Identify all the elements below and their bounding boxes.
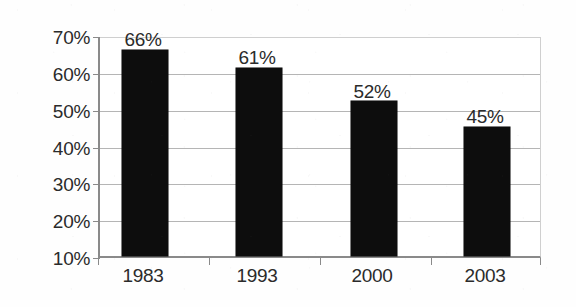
- bar-1983: [122, 50, 168, 256]
- x-tick-label-2000-text: 2000: [351, 265, 392, 286]
- y-axis-tick-40: [93, 148, 100, 149]
- x-tick-label-2003-text: 2003: [464, 265, 505, 286]
- bar-2003: [464, 127, 510, 256]
- x-tick-label-2000: 2000: [351, 266, 392, 285]
- y-tick-label-40: 40%: [10, 138, 90, 157]
- y-tick-label-20: 20%: [10, 212, 90, 231]
- y-axis-tick-70: [93, 37, 100, 38]
- y-axis-tick-60: [93, 74, 100, 75]
- x-axis-tick-0: [98, 258, 99, 265]
- bar-value-1983: 66%: [124, 30, 161, 49]
- y-tick-label-60: 60%: [10, 64, 90, 83]
- bar-1993: [236, 68, 282, 256]
- y-tick-label-30-text: 30%: [53, 174, 90, 195]
- bar-value-2003-text: 45%: [466, 106, 503, 127]
- y-tick-label-40-text: 40%: [53, 137, 90, 158]
- x-tick-label-1993-text: 1993: [236, 265, 277, 286]
- y-axis-tick-20: [93, 221, 100, 222]
- y-tick-label-20-text: 20%: [53, 211, 90, 232]
- x-tick-label-1993: 1993: [236, 266, 277, 285]
- x-axis-tick-3: [431, 258, 432, 265]
- y-tick-label-70: 70%: [10, 28, 90, 47]
- bar-2000: [351, 101, 397, 256]
- y-tick-label-10-text: 10%: [53, 248, 90, 269]
- y-tick-label-30: 30%: [10, 175, 90, 194]
- x-axis-tick-4: [540, 258, 541, 265]
- x-tick-label-1983-text: 1983: [122, 265, 163, 286]
- x-tick-label-2003: 2003: [464, 266, 505, 285]
- bar-value-1993: 61%: [238, 48, 275, 67]
- y-tick-label-10: 10%: [10, 249, 90, 268]
- x-axis-tick-2: [320, 258, 321, 265]
- y-tick-label-50: 50%: [10, 101, 90, 120]
- bar-value-1983-text: 66%: [124, 29, 161, 50]
- plot-area: [98, 37, 541, 258]
- y-tick-label-60-text: 60%: [53, 63, 90, 84]
- bar-value-2000-text: 52%: [353, 81, 390, 102]
- bar-value-2000: 52%: [353, 82, 390, 101]
- y-tick-label-50-text: 50%: [53, 100, 90, 121]
- x-tick-label-1983: 1983: [122, 266, 163, 285]
- bar-chart: 70% 60% 50% 40% 30% 20% 10%: [0, 0, 576, 307]
- y-tick-label-70-text: 70%: [53, 27, 90, 48]
- y-axis-tick-50: [93, 111, 100, 112]
- bar-value-1993-text: 61%: [238, 47, 275, 68]
- x-axis-tick-1: [209, 258, 210, 265]
- bar-value-2003: 45%: [466, 107, 503, 126]
- y-axis-tick-30: [93, 184, 100, 185]
